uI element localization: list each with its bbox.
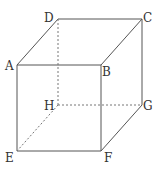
edge-DA	[17, 19, 58, 65]
cube-svg: D C A B H G E F	[0, 0, 159, 172]
vertex-label-A: A	[4, 59, 14, 73]
edge-BC	[101, 19, 142, 65]
cube-diagram: D C A B H G E F	[0, 0, 159, 172]
vertex-label-H: H	[44, 99, 54, 113]
vertex-label-E: E	[5, 151, 14, 165]
vertex-label-D: D	[44, 11, 54, 25]
vertex-label-F: F	[104, 151, 112, 165]
vertex-label-B: B	[102, 65, 111, 79]
edge-FG	[101, 105, 142, 151]
vertex-label-G: G	[143, 99, 153, 113]
vertex-label-C: C	[143, 11, 152, 25]
